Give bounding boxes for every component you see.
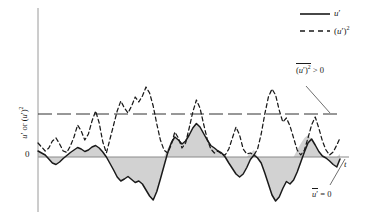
annotation-mean-fluctuation-zero: u′ = 0	[312, 188, 331, 199]
annotation-mean-square-positive: (u′)2 > 0	[296, 63, 324, 74]
turbulent-fluctuation-figure: u′ or (u′)2 0 t u′ (u′)2 (u′)2 > 0 u′ = …	[0, 0, 371, 224]
x-axis-label: t	[344, 160, 347, 169]
leader-line-mean-square	[306, 86, 330, 113]
y-axis-zero-tick: 0	[25, 150, 30, 159]
legend-label-u-prime: u′	[334, 9, 340, 18]
legend-label-u-prime-squared: (u′)2	[334, 25, 350, 36]
